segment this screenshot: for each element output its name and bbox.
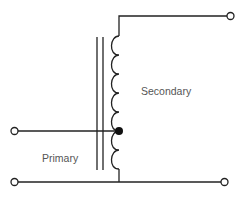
primary-input-terminal xyxy=(11,128,18,135)
transformer-diagram xyxy=(0,0,244,197)
common-left-terminal xyxy=(11,179,18,186)
secondary-top-terminal xyxy=(227,13,234,20)
common-right-terminal xyxy=(221,179,228,186)
secondary-top-wire xyxy=(119,16,227,36)
primary-label: Primary xyxy=(42,152,78,164)
secondary-label: Secondary xyxy=(141,85,191,97)
winding-coil xyxy=(111,36,119,169)
tap-dot xyxy=(115,127,123,135)
